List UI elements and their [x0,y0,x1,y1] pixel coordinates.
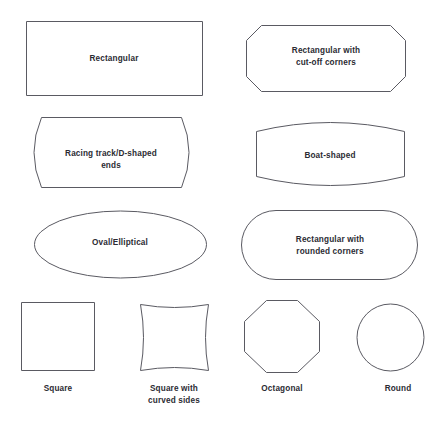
rectangular-cut-off-corners-label-line2: cut-off corners [296,58,356,67]
boat-shaped-label: Boat-shaped [304,151,355,160]
octagonal-shape [245,301,320,373]
rectangular-rounded-corners-label-line1: Rectangular with [296,235,364,244]
square-with-curved-sides-caption-line2: curved sides [148,396,200,405]
rectangular-rounded-corners-shape-group: Rectangular with rounded corners [242,211,418,280]
square-caption: Square [44,384,73,393]
rectangular-shape-group: Rectangular [27,22,203,96]
oval-elliptical-shape-group: Oval/Elliptical [35,211,207,278]
rectangular-rounded-corners-shape [242,211,418,280]
round-caption: Round [385,384,412,393]
racing-track-label-line1: Racing track/D-shaped [65,149,157,158]
octagonal-caption: Octagonal [261,384,302,393]
rectangular-label: Rectangular [90,54,140,63]
rectangular-cut-off-corners-shape-group: Rectangular with cut-off corners [247,26,406,92]
square-with-curved-sides-shape-group: Square with curved sides [141,305,209,406]
octagonal-shape-group: Octagonal [245,301,320,394]
oval-elliptical-label: Oval/Elliptical [92,238,148,247]
rectangular-cut-off-corners-label-line1: Rectangular with [292,46,360,55]
racing-track-label-line2: ends [101,161,121,170]
racing-track-d-shaped-ends-shape-group: Racing track/D-shaped ends [34,118,189,188]
shape-reference-chart: Rectangular Rectangular with cut-off cor… [0,0,446,426]
square-with-curved-sides-caption-line1: Square with [150,384,198,393]
boat-shaped-shape-group: Boat-shaped [257,123,405,186]
square-with-curved-sides-shape [141,305,209,371]
round-shape [357,304,424,371]
square-shape-group: Square [22,303,95,394]
square-shape [22,303,95,371]
rectangular-rounded-corners-label-line2: rounded corners [296,247,364,256]
round-shape-group: Round [357,304,424,393]
